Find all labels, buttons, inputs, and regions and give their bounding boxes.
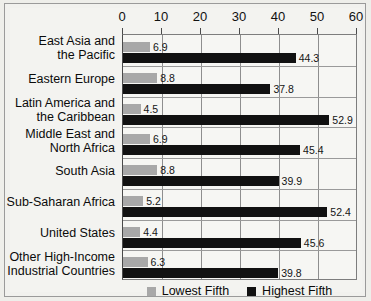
bar-lowest-fifth	[123, 104, 141, 114]
row-separator	[123, 189, 356, 190]
category-label: Middle East andNorth Africa	[25, 127, 115, 155]
bar-highest-fifth	[123, 115, 329, 125]
category-label-line: Industrial Countries	[7, 264, 115, 278]
bar-value-label: 45.4	[303, 145, 323, 155]
bar-value-label: 44.3	[299, 53, 319, 63]
bar-value-label: 39.9	[282, 176, 302, 186]
category-label: Eastern Europe	[28, 72, 115, 86]
category-label: Latin America andthe Caribbean	[15, 96, 115, 124]
bar-lowest-fifth	[123, 165, 157, 175]
x-axis-tick-label: 0	[118, 9, 125, 24]
row-separator	[123, 250, 356, 251]
bar-value-label: 45.6	[304, 238, 324, 248]
category-label: South Asia	[55, 164, 115, 178]
bar-value-label: 39.8	[281, 268, 301, 278]
bar-lowest-fifth	[123, 196, 143, 206]
bar-value-label: 6.9	[153, 42, 168, 52]
bar-lowest-fifth	[123, 42, 150, 52]
bar-lowest-fifth	[123, 257, 148, 267]
y-axis-category-labels: East Asia andthe PacificEastern EuropeLa…	[9, 34, 119, 280]
category-label-line: Middle East and	[25, 127, 115, 141]
bar-highest-fifth	[123, 207, 327, 217]
x-axis-tick-label: 40	[271, 9, 285, 24]
chart-figure: 0102030405060 East Asia andthe PacificEa…	[0, 0, 371, 301]
bar-value-label: 6.9	[153, 134, 168, 144]
legend-label: Lowest Fifth	[162, 284, 229, 298]
bar-highest-fifth	[123, 53, 296, 63]
row-separator	[123, 66, 356, 67]
bar-value-label: 5.2	[146, 196, 161, 206]
bar-highest-fifth	[123, 145, 300, 155]
bar-value-label: 4.5	[144, 104, 159, 114]
bar-highest-fifth	[123, 176, 279, 186]
bar-lowest-fifth	[123, 73, 157, 83]
bar-value-label: 52.4	[330, 207, 350, 217]
legend-swatch-icon	[147, 287, 156, 296]
row-separator	[123, 127, 356, 128]
category-label-line: South Asia	[55, 164, 115, 178]
category-label-line: East Asia and	[39, 34, 115, 48]
bar-highest-fifth	[123, 238, 301, 248]
category-label: United States	[40, 226, 115, 240]
plot-area: 6.944.38.837.84.552.96.945.48.839.95.252…	[122, 34, 357, 280]
legend-label: Highest Fifth	[262, 284, 332, 298]
category-label-line: Latin America and	[15, 96, 115, 110]
category-label: Other High-IncomeIndustrial Countries	[7, 250, 115, 278]
legend-item: Highest Fifth	[247, 284, 332, 298]
category-label: Sub-Saharan Africa	[7, 195, 115, 209]
bar-lowest-fifth	[123, 227, 140, 237]
category-label-line: North Africa	[25, 141, 115, 155]
category-label: East Asia andthe Pacific	[39, 34, 115, 62]
bar-highest-fifth	[123, 84, 270, 94]
row-separator	[123, 158, 356, 159]
bar-lowest-fifth	[123, 134, 150, 144]
x-axis-tick-label: 50	[310, 9, 324, 24]
category-label-line: the Caribbean	[15, 110, 115, 124]
x-axis-tick-label: 20	[193, 9, 207, 24]
category-label-line: the Pacific	[39, 48, 115, 62]
category-label-line: Eastern Europe	[28, 72, 115, 86]
legend-item: Lowest Fifth	[147, 284, 229, 298]
bar-value-label: 52.9	[332, 115, 352, 125]
category-label-line: United States	[40, 226, 115, 240]
bar-highest-fifth	[123, 268, 278, 278]
x-axis-tick-label: 60	[349, 9, 363, 24]
x-axis-tick-label: 30	[232, 9, 246, 24]
chart-legend: Lowest FifthHighest Fifth	[122, 282, 357, 300]
bar-value-label: 8.8	[160, 165, 175, 175]
category-label-line: Other High-Income	[7, 250, 115, 264]
row-separator	[123, 220, 356, 221]
row-separator	[123, 97, 356, 98]
category-label-line: Sub-Saharan Africa	[7, 195, 115, 209]
bar-value-label: 37.8	[273, 84, 293, 94]
chart-plot-wrapper: 0102030405060 East Asia andthe PacificEa…	[9, 8, 361, 291]
x-axis-tick-labels: 0102030405060	[9, 8, 361, 28]
legend-swatch-icon	[247, 287, 256, 296]
bar-value-label: 8.8	[160, 73, 175, 83]
bar-value-label: 6.3	[151, 257, 166, 267]
x-axis-tick-label: 10	[154, 9, 168, 24]
bar-value-label: 4.4	[143, 227, 158, 237]
